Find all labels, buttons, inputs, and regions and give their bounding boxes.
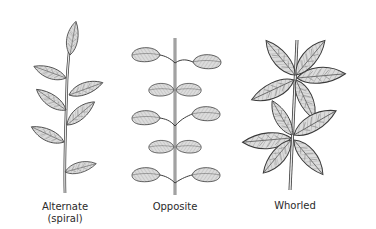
whorled-label: Whorled	[260, 200, 330, 212]
opposite-label: Opposite	[140, 201, 210, 213]
leaf-arrangement-diagram: Alternate (spiral) Opposite Whorled	[0, 0, 376, 229]
illustration	[0, 0, 376, 229]
opposite-plant	[132, 38, 221, 195]
whorled-plant	[242, 35, 346, 190]
alternate-plant	[29, 20, 105, 193]
alternate-label: Alternate (spiral)	[30, 201, 100, 225]
alternate-title: Alternate	[30, 201, 100, 213]
alternate-subtitle: (spiral)	[30, 213, 100, 225]
